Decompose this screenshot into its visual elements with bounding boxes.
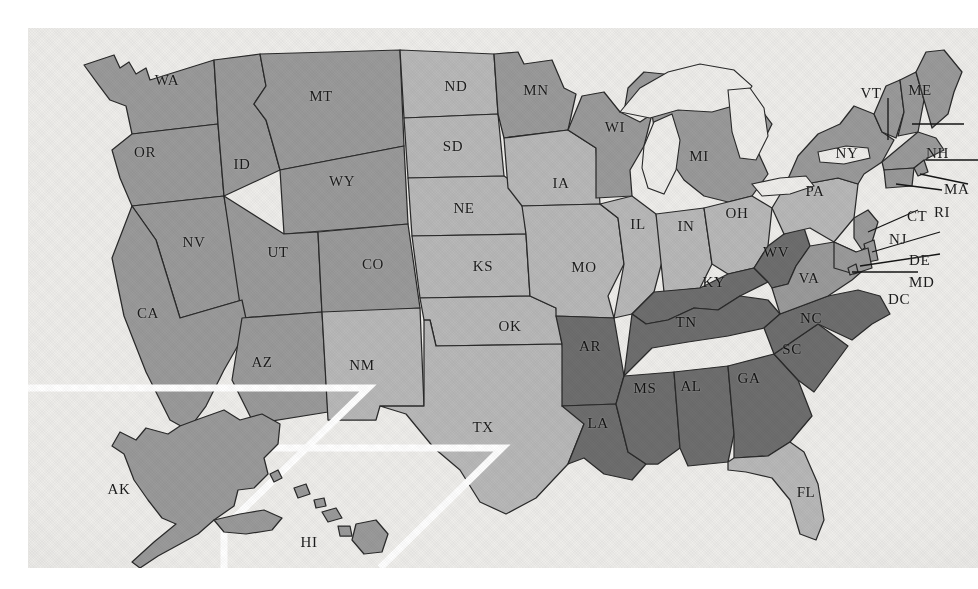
state-label-GA[interactable]: GA: [738, 370, 761, 387]
state-label-AK[interactable]: AK: [108, 481, 131, 498]
state-label-KY[interactable]: KY: [703, 274, 726, 291]
state-label-MT[interactable]: MT: [309, 88, 333, 105]
us-map-plate: [28, 28, 978, 568]
state-label-NV[interactable]: NV: [183, 234, 206, 251]
state-label-NE[interactable]: NE: [453, 200, 474, 217]
state-shape-HI[interactable]: [270, 470, 388, 554]
state-label-NJ[interactable]: NJ: [889, 231, 907, 248]
us-map-svg: [28, 28, 978, 568]
state-label-WI[interactable]: WI: [605, 119, 625, 136]
state-shape-OK[interactable]: [420, 296, 562, 346]
state-label-ND[interactable]: ND: [445, 78, 468, 95]
state-label-ID[interactable]: ID: [233, 156, 250, 173]
state-label-NH[interactable]: NH: [926, 145, 949, 162]
state-label-OK[interactable]: OK: [499, 318, 522, 335]
state-label-CO[interactable]: CO: [362, 256, 384, 273]
state-label-DC[interactable]: DC: [888, 291, 910, 308]
state-label-MD[interactable]: MD: [909, 274, 934, 291]
state-label-CT[interactable]: CT: [907, 208, 927, 225]
state-shape-OR[interactable]: [112, 124, 224, 206]
state-label-OR[interactable]: OR: [134, 144, 156, 161]
state-label-OH[interactable]: OH: [726, 205, 749, 222]
state-label-MN[interactable]: MN: [523, 82, 548, 99]
state-label-IA[interactable]: IA: [552, 175, 569, 192]
state-label-NM[interactable]: NM: [349, 357, 374, 374]
state-label-LA[interactable]: LA: [587, 415, 608, 432]
state-label-KS[interactable]: KS: [473, 258, 493, 275]
state-label-ME[interactable]: ME: [908, 82, 932, 99]
state-shape-AK[interactable]: [112, 410, 280, 568]
state-label-DE[interactable]: DE: [909, 252, 930, 269]
state-label-WA[interactable]: WA: [155, 72, 180, 89]
map-page: WAORIDMTWYNVUTCOCAAZNMNDSDNEKSOKTXMNIAMO…: [0, 0, 978, 589]
state-label-SC[interactable]: SC: [782, 341, 802, 358]
state-shape-WA[interactable]: [84, 55, 218, 134]
state-shape-AR[interactable]: [556, 316, 624, 406]
state-label-FL[interactable]: FL: [797, 484, 816, 501]
state-label-NC[interactable]: NC: [800, 310, 822, 327]
state-label-TX[interactable]: TX: [472, 419, 493, 436]
state-label-TN[interactable]: TN: [675, 314, 696, 331]
state-label-RI[interactable]: RI: [934, 204, 950, 221]
state-label-NY[interactable]: NY: [836, 145, 859, 162]
state-label-MO[interactable]: MO: [571, 259, 596, 276]
state-shape-AZ[interactable]: [232, 312, 328, 424]
state-label-IN[interactable]: IN: [677, 218, 694, 235]
state-label-UT[interactable]: UT: [267, 244, 288, 261]
state-label-MI[interactable]: MI: [689, 148, 709, 165]
state-label-SD[interactable]: SD: [443, 138, 463, 155]
state-shape-KS[interactable]: [412, 234, 530, 298]
state-label-HI[interactable]: HI: [300, 534, 317, 551]
state-label-PA[interactable]: PA: [806, 183, 825, 200]
state-label-MS[interactable]: MS: [634, 380, 657, 397]
state-label-WY[interactable]: WY: [329, 173, 355, 190]
state-label-VT[interactable]: VT: [860, 85, 881, 102]
state-label-MA[interactable]: MA: [944, 181, 969, 198]
state-label-AR[interactable]: AR: [579, 338, 601, 355]
state-label-AZ[interactable]: AZ: [251, 354, 272, 371]
state-label-VA[interactable]: VA: [799, 270, 820, 287]
state-label-IL[interactable]: IL: [630, 216, 645, 233]
state-label-AL[interactable]: AL: [680, 378, 701, 395]
state-label-CA[interactable]: CA: [137, 305, 159, 322]
state-label-WV[interactable]: WV: [763, 244, 789, 261]
